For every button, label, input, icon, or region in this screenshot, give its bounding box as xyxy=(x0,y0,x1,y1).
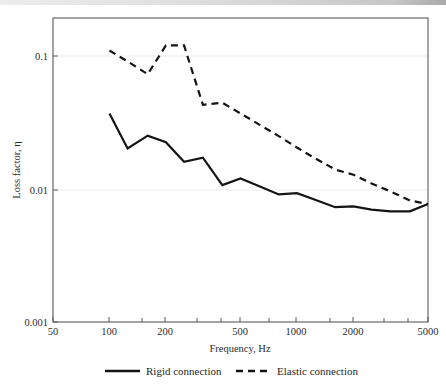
x-tick-label-50: 50 xyxy=(48,326,59,337)
x-tick-label-2000: 2000 xyxy=(343,326,364,337)
y-tick-label-0.1: 0.1 xyxy=(35,51,48,62)
figure-container: 50 100 200 500 1000 2000 5000 0.1 0.01 0… xyxy=(0,0,446,391)
scan-edge-artifact xyxy=(0,0,446,5)
gridlines xyxy=(53,56,428,190)
y-axis-ticks xyxy=(53,56,58,322)
data-series xyxy=(109,45,428,211)
x-tick-label-200: 200 xyxy=(157,326,173,337)
legend-label-rigid-connection: Rigid connection xyxy=(146,365,222,377)
loss-factor-vs-frequency-chart: 50 100 200 500 1000 2000 5000 0.1 0.01 0… xyxy=(0,0,446,391)
x-tick-labels: 50 100 200 500 1000 2000 5000 xyxy=(48,326,439,337)
x-tick-label-500: 500 xyxy=(232,326,248,337)
x-axis-ticks xyxy=(53,317,428,322)
x-tick-label-100: 100 xyxy=(101,326,117,337)
plot-frame xyxy=(53,18,428,322)
legend-label-elastic-connection: Elastic connection xyxy=(277,365,358,377)
y-tick-labels: 0.1 0.01 0.001 xyxy=(24,51,48,328)
series-line-rigid-connection xyxy=(109,113,428,211)
x-tick-label-1000: 1000 xyxy=(286,326,307,337)
y-tick-label-0.001: 0.001 xyxy=(24,317,48,328)
y-axis-title: Loss factor, η xyxy=(11,141,22,198)
x-tick-label-5000: 5000 xyxy=(418,326,439,337)
legend: Rigid connection Elastic connection xyxy=(105,365,358,377)
x-axis-title: Frequency, Hz xyxy=(209,343,270,354)
series-line-elastic-connection xyxy=(109,45,428,204)
y-tick-label-0.01: 0.01 xyxy=(30,185,48,196)
